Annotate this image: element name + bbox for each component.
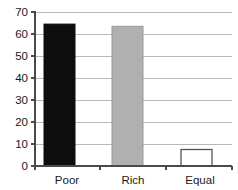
y-tick-label-50: 50 bbox=[15, 50, 28, 62]
y-tick-label-0: 0 bbox=[22, 160, 28, 172]
y-tick-label-10: 10 bbox=[15, 138, 28, 150]
x-category-label-poor: Poor bbox=[55, 174, 79, 186]
y-tick-label-30: 30 bbox=[15, 94, 28, 106]
y-tick-label-70: 70 bbox=[15, 6, 28, 18]
bar-chart: 70 60 50 40 30 20 10 0 Poor Rich Equal bbox=[0, 0, 238, 190]
bar-equal bbox=[181, 150, 212, 167]
bar-poor bbox=[44, 24, 75, 166]
y-tick-label-40: 40 bbox=[15, 72, 28, 84]
x-category-labels: Poor Rich Equal bbox=[55, 174, 215, 186]
x-category-label-equal: Equal bbox=[185, 174, 214, 186]
x-category-label-rich: Rich bbox=[121, 174, 144, 186]
bar-rich bbox=[112, 26, 143, 166]
y-tick-label-60: 60 bbox=[15, 28, 28, 40]
y-tick-label-20: 20 bbox=[15, 116, 28, 128]
chart-canvas: 70 60 50 40 30 20 10 0 Poor Rich Equal bbox=[0, 0, 238, 190]
